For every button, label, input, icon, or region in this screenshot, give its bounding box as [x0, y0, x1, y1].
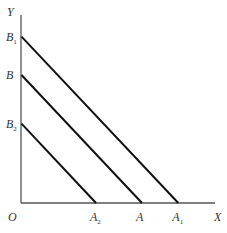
x-intercept-label: A2: [89, 210, 101, 226]
y-intercept-label: B2: [6, 117, 17, 133]
budget-line-b-a: [22, 75, 143, 203]
x-intercept-label: A: [135, 210, 144, 224]
x-intercept-label: A1: [171, 210, 183, 226]
x-axis-label: X: [213, 210, 222, 224]
y-intercept-label: B1: [6, 30, 17, 46]
budget-line-b1-a1: [22, 37, 179, 203]
budget-line-diagram: Y X O B1A1BAB2A2: [0, 0, 227, 233]
origin-label: O: [8, 210, 17, 224]
y-axis-label: Y: [7, 5, 15, 19]
y-intercept-label: B: [6, 68, 14, 82]
intercept-labels: B1A1BAB2A2: [6, 30, 184, 226]
budget-lines: [22, 37, 179, 203]
budget-line-b2-a2: [22, 124, 97, 203]
